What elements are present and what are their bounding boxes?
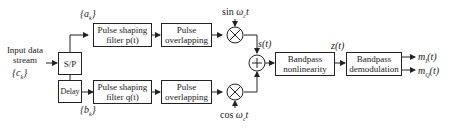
pulse-shaping-p-line1: Pulse shaping: [98, 25, 148, 35]
z-t-label: z(t): [331, 40, 344, 51]
delay-label: Delay: [60, 87, 79, 97]
overlap-top-line1: Pulse: [177, 25, 197, 35]
pulse-shaping-filter-q-block: Pulse shaping filter q(t): [93, 80, 152, 104]
sp-label: S/P: [64, 59, 77, 69]
s-t-label: s(t): [258, 38, 271, 49]
pulse-overlapping-bottom-block: Pulse overlapping: [161, 80, 212, 104]
bandpass-nonlinearity-block: Bandpass nonlinearity: [275, 52, 335, 76]
pulse-overlapping-top-block: Pulse overlapping: [161, 23, 212, 47]
pulse-shaping-q-line2: filter q(t): [106, 92, 139, 102]
pulse-shaping-p-line2: filter p(t): [106, 35, 139, 45]
bandpass-demodulation-block: Bandpass demodulation: [346, 52, 402, 76]
cos-carrier-label: cos ωct: [220, 109, 248, 125]
sp-block: S/P: [58, 52, 82, 75]
nonlinearity-line1: Bandpass: [288, 54, 323, 64]
m-q-output-label: mQ(t): [418, 65, 439, 81]
overlap-bottom-line2: overlapping: [165, 92, 208, 102]
ak-label: {ak}: [80, 8, 96, 24]
bk-label: {bk}: [80, 104, 96, 120]
input-line2: stream: [2, 55, 48, 65]
input-line1: Input data: [2, 45, 48, 55]
overlap-bottom-line1: Pulse: [177, 82, 197, 92]
sin-carrier-label: sin ωct: [222, 6, 249, 22]
demod-line1: Bandpass: [357, 54, 392, 64]
delay-block: Delay: [58, 80, 82, 103]
demod-line2: demodulation: [349, 64, 399, 74]
overlap-top-line2: overlapping: [165, 35, 208, 45]
ck-symbol: {ck}: [12, 67, 27, 83]
pulse-shaping-q-line1: Pulse shaping: [98, 82, 148, 92]
input-data-stream-label: Input data stream: [2, 45, 48, 65]
nonlinearity-line2: nonlinearity: [283, 64, 327, 74]
pulse-shaping-filter-p-block: Pulse shaping filter p(t): [93, 23, 152, 47]
